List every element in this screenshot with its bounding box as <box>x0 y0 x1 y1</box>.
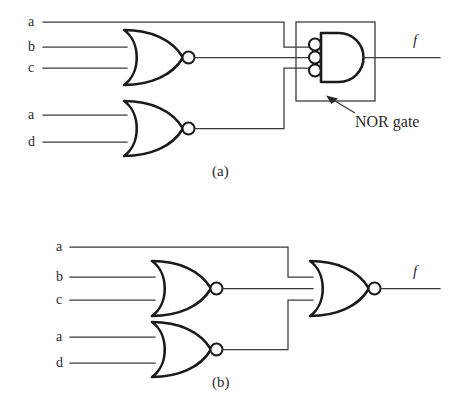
input-label-b-panel-b: b <box>56 270 63 284</box>
input-label-a2-panel-b: a <box>56 330 62 344</box>
nor-gate-annotation-arrowhead <box>326 96 338 105</box>
nor-gate-ad-body-b <box>152 322 211 377</box>
panel-a-caption: (a) <box>212 164 229 179</box>
wire-a1-to-demorgan-in1 <box>43 22 310 47</box>
nor-gate-ad-output-bubble-b <box>211 344 223 356</box>
nor-gate-output-bubble-b <box>369 283 381 295</box>
output-label-f-panel-b: f <box>413 264 417 279</box>
nor-gate-bc-body-b <box>152 261 211 316</box>
circuit-svg <box>0 0 456 402</box>
wire-norad-to-output-nor-in3-b <box>223 300 314 350</box>
input-label-a1-panel-a: a <box>28 15 34 29</box>
wire-norad-to-demorgan-in3 <box>195 68 311 129</box>
input-label-d-panel-b: d <box>56 356 63 370</box>
output-label-f-panel-a: f <box>413 33 417 48</box>
input-label-b-panel-a: b <box>28 40 35 54</box>
nor-gate-ad-body <box>124 101 183 156</box>
input-label-d-panel-a: d <box>28 135 35 149</box>
nor-gate-bc-output-bubble-b <box>211 283 223 295</box>
input-label-a2-panel-a: a <box>28 108 34 122</box>
panel-a-group <box>43 22 440 156</box>
nor-gate-bc-output-bubble <box>183 52 195 64</box>
nor-gate-annotation-label: NOR gate <box>355 114 419 130</box>
panel-b-group <box>70 247 440 377</box>
input-label-a1-panel-b: a <box>56 240 62 254</box>
demorgan-nor-gate-body <box>321 33 363 82</box>
demorgan-input-bubble-1 <box>309 39 321 51</box>
logic-circuit-figure: a b c a d f NOR gate (a) a b c a d f (b) <box>0 0 456 402</box>
demorgan-input-bubble-3 <box>309 65 321 77</box>
demorgan-input-bubble-2 <box>309 52 321 64</box>
panel-b-caption: (b) <box>212 375 230 390</box>
input-label-c-panel-b: c <box>56 293 62 307</box>
nor-gate-bc-body <box>124 30 183 85</box>
nor-gate-output-body-b <box>310 261 369 316</box>
nor-gate-ad-output-bubble <box>183 123 195 135</box>
input-label-c-panel-a: c <box>28 61 34 75</box>
